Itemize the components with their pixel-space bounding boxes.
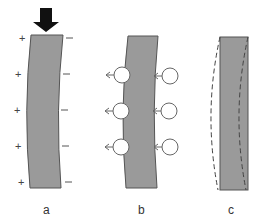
- right-dipole-3: [154, 139, 178, 155]
- left-dipole-3: [105, 139, 129, 155]
- plus-sign: +: [15, 68, 21, 80]
- bent-plate-a: [27, 35, 63, 188]
- straight-plate-c: [220, 37, 248, 190]
- panel-a: + + + + + a: [14, 8, 73, 217]
- right-dipole-2: [153, 103, 177, 119]
- right-dipole-1: [154, 68, 178, 84]
- plus-sign: +: [15, 140, 21, 152]
- down-arrow-icon: [33, 8, 59, 32]
- left-dipole-1: [106, 67, 130, 83]
- dashed-curved-outline: [211, 37, 220, 190]
- panel-b: b: [105, 36, 178, 217]
- left-dipole-2: [105, 103, 129, 119]
- diagram-canvas: + + + + + a: [0, 0, 258, 222]
- plus-sign: +: [14, 104, 20, 116]
- panel-label-b: b: [138, 203, 145, 217]
- plus-sign: +: [19, 32, 25, 44]
- plus-sign: +: [18, 176, 24, 188]
- panel-c: c: [211, 37, 248, 217]
- panel-label-c: c: [228, 203, 234, 217]
- panel-label-a: a: [43, 203, 50, 217]
